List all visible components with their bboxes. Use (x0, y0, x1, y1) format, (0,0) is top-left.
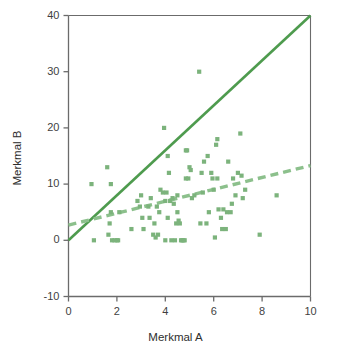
x-tick-label: 2 (97, 306, 137, 317)
data-point (210, 176, 214, 180)
data-point (173, 238, 177, 242)
data-point (212, 188, 216, 192)
data-point (89, 182, 93, 186)
data-point (226, 160, 230, 164)
y-tick-label: -10 (0, 291, 60, 302)
data-point (105, 165, 109, 169)
y-tick-label: 40 (0, 10, 60, 21)
data-point (224, 227, 228, 231)
data-point (135, 199, 139, 203)
identity-line (69, 16, 311, 241)
data-point (219, 216, 223, 220)
data-point (225, 210, 229, 214)
data-point (116, 238, 120, 242)
data-point (169, 238, 173, 242)
data-point (167, 171, 171, 175)
data-point (138, 204, 142, 208)
axis-group (69, 16, 311, 297)
data-point (206, 154, 210, 158)
scatter-chart: -100102030400246810 Merkmal A Merkmal B (0, 0, 351, 358)
data-point (239, 174, 243, 178)
data-point (161, 190, 165, 194)
data-point (117, 210, 121, 214)
data-point (147, 216, 151, 220)
regression-line (69, 166, 311, 226)
data-point (236, 171, 240, 175)
data-point (198, 221, 202, 225)
data-point (157, 210, 161, 214)
data-point (221, 207, 225, 211)
data-point (215, 176, 219, 180)
data-point (186, 176, 190, 180)
data-point (140, 216, 144, 220)
x-tick-label: 0 (49, 306, 89, 317)
data-point (164, 190, 168, 194)
data-point (129, 227, 133, 231)
data-point (178, 221, 182, 225)
data-point (215, 137, 219, 141)
data-point (258, 233, 262, 237)
data-point (155, 204, 159, 208)
data-point (200, 171, 204, 175)
data-point (139, 193, 143, 197)
data-point (183, 238, 187, 242)
x-tick-label: 8 (242, 306, 282, 317)
data-point (185, 148, 189, 152)
data-point (149, 196, 153, 200)
data-point (141, 227, 145, 231)
data-point (166, 154, 170, 158)
data-point (152, 221, 156, 225)
data-point (202, 160, 206, 164)
data-point (233, 193, 237, 197)
data-point (229, 210, 233, 214)
x-tick-label: 4 (145, 306, 185, 317)
data-point (275, 193, 279, 197)
x-tick-label: 10 (291, 306, 331, 317)
data-point (241, 196, 245, 200)
data-point (216, 207, 220, 211)
data-point (192, 193, 196, 197)
data-points-group (89, 70, 278, 243)
data-point (175, 193, 179, 197)
data-point (189, 168, 193, 172)
data-point (109, 210, 113, 214)
data-point (201, 190, 205, 194)
y-tick-label: 10 (0, 178, 60, 189)
data-point (109, 182, 113, 186)
x-axis-title: Merkmal A (0, 331, 351, 343)
data-point (92, 238, 96, 242)
y-tick-label: 20 (0, 122, 60, 133)
data-point (238, 131, 242, 135)
data-point (172, 202, 176, 206)
data-point (243, 188, 247, 192)
data-point (213, 235, 217, 239)
data-point (166, 216, 170, 220)
tick-marks-group (64, 16, 311, 302)
data-point (163, 238, 167, 242)
data-point (146, 204, 150, 208)
data-point (214, 143, 218, 147)
data-point (209, 171, 213, 175)
data-point (230, 202, 234, 206)
y-axis-title: Merkmal B (11, 103, 23, 213)
x-tick-label: 6 (194, 306, 234, 317)
data-point (207, 210, 211, 214)
trend-lines-group (69, 16, 311, 241)
data-point (170, 196, 174, 200)
data-point (197, 70, 201, 74)
data-point (163, 199, 167, 203)
data-point (106, 233, 110, 237)
y-tick-label: 0 (0, 234, 60, 245)
data-point (231, 176, 235, 180)
data-point (108, 221, 112, 225)
data-point (162, 126, 166, 130)
data-point (220, 227, 224, 231)
data-point (204, 221, 208, 225)
data-point (175, 210, 179, 214)
y-tick-label: 30 (0, 66, 60, 77)
data-point (156, 233, 160, 237)
